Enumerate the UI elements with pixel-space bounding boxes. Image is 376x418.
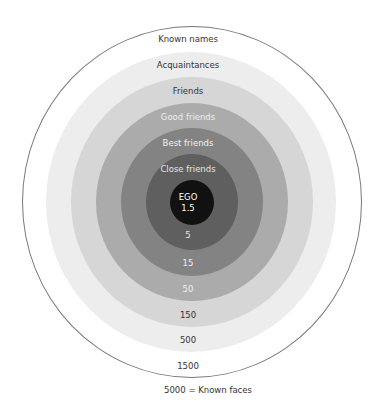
label-known-names: Known names — [0, 34, 376, 44]
count-good-friends: 50 — [0, 284, 376, 294]
label-best-friends: Best friends — [0, 138, 376, 148]
label-close-friends: Close friends — [0, 164, 376, 174]
count-close-friends: 5 — [0, 230, 376, 240]
count-friends: 150 — [0, 310, 376, 320]
caption-known-faces: 5000 = Known faces — [20, 385, 376, 395]
ego-label: EGO — [0, 192, 376, 202]
label-friends: Friends — [0, 86, 376, 96]
count-acquaintances: 500 — [0, 335, 376, 345]
count-best-friends: 15 — [0, 258, 376, 268]
label-acquaintances: Acquaintances — [0, 60, 376, 70]
ego-value: 1.5 — [0, 203, 376, 213]
count-known-names: 1500 — [0, 361, 376, 371]
label-good-friends: Good friends — [0, 112, 376, 122]
